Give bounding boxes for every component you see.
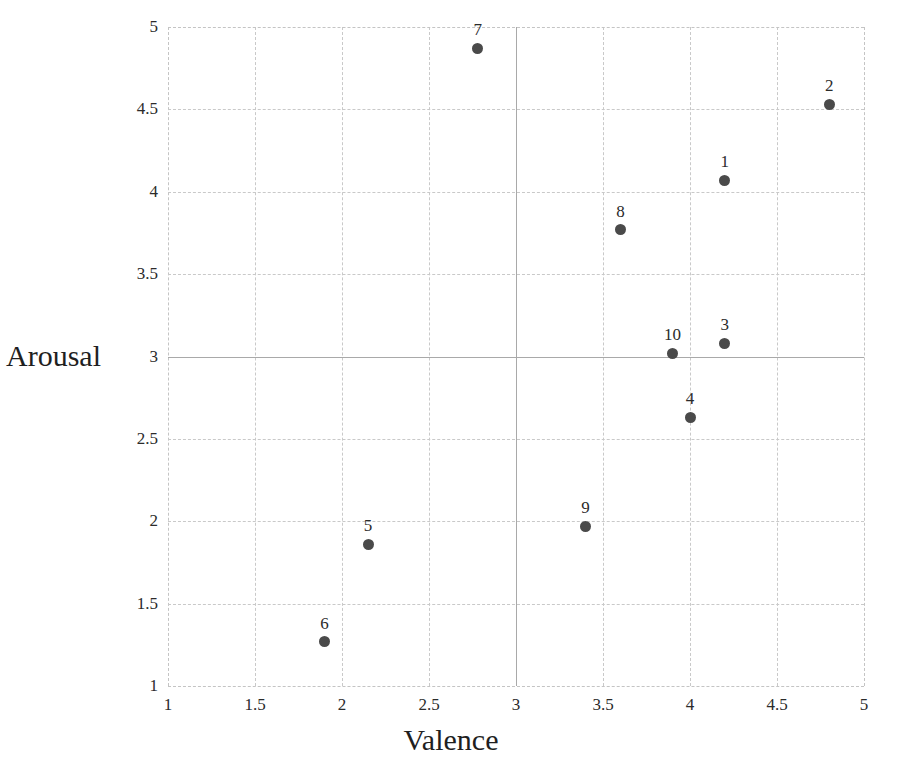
x-axis-tick-label: 5: [860, 695, 869, 715]
x-axis-tick-label: 2: [338, 695, 347, 715]
data-point[interactable]: [319, 636, 330, 647]
y-axis-tick-label: 3: [150, 347, 159, 367]
y-axis-tick-label: 1: [150, 676, 159, 696]
reference-line-horizontal: [168, 357, 864, 358]
x-axis-tick-label: 3: [512, 695, 521, 715]
gridline-horizontal: [168, 686, 864, 687]
x-axis-tick-label: 1.5: [244, 695, 265, 715]
data-point[interactable]: [363, 539, 374, 550]
data-point-label: 5: [364, 517, 373, 534]
data-point-label: 8: [616, 203, 625, 220]
data-point[interactable]: [580, 521, 591, 532]
data-point-label: 3: [721, 316, 730, 333]
y-axis-tick-label: 5: [150, 17, 159, 37]
y-axis-tick-label: 1.5: [137, 594, 158, 614]
x-axis-tick-label: 2.5: [418, 695, 439, 715]
data-point-label: 7: [473, 21, 482, 38]
data-point[interactable]: [667, 348, 678, 359]
y-axis-title: Arousal: [6, 339, 101, 373]
data-point-label: 2: [825, 77, 834, 94]
y-axis-tick-label: 2: [150, 511, 159, 531]
scatter-plot-figure: 12345678910 Arousal Valence 11.522.533.5…: [0, 0, 902, 768]
plot-area: 12345678910: [168, 27, 864, 686]
x-axis-title: Valence: [0, 723, 902, 757]
x-axis-tick-label: 1: [164, 695, 173, 715]
data-point[interactable]: [685, 412, 696, 423]
data-point[interactable]: [615, 224, 626, 235]
gridline-vertical: [864, 27, 865, 686]
data-point-label: 6: [320, 615, 329, 632]
y-axis-tick-label: 4.5: [137, 99, 158, 119]
data-point-label: 10: [664, 326, 681, 343]
data-point-label: 4: [686, 390, 695, 407]
y-axis-tick-label: 4: [150, 182, 159, 202]
y-axis-tick-label: 2.5: [137, 429, 158, 449]
data-point[interactable]: [719, 175, 730, 186]
data-point-label: 9: [581, 499, 590, 516]
data-point[interactable]: [719, 338, 730, 349]
data-point[interactable]: [824, 99, 835, 110]
x-axis-tick-label: 4: [686, 695, 695, 715]
data-point[interactable]: [472, 43, 483, 54]
x-axis-tick-label: 3.5: [592, 695, 613, 715]
data-point-label: 1: [721, 153, 730, 170]
x-axis-tick-label: 4.5: [766, 695, 787, 715]
y-axis-tick-label: 3.5: [137, 264, 158, 284]
